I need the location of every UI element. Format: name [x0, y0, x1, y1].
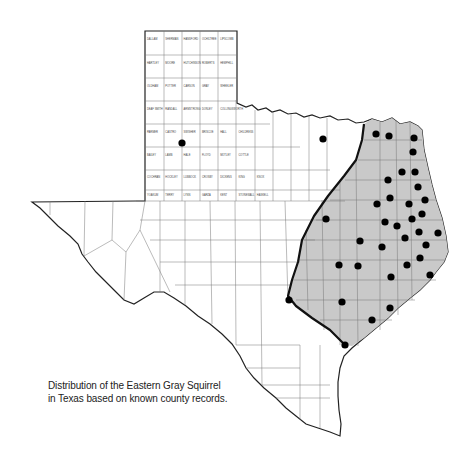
county-label: RANDALL [165, 107, 178, 111]
county-label: BAILEY [147, 153, 156, 157]
record-dot [414, 183, 421, 190]
record-dot [398, 168, 405, 175]
county-label: PARMER [147, 130, 158, 134]
county-label: HASKELL [257, 193, 269, 197]
county-label: OCHILTREE [202, 37, 217, 41]
record-dot [401, 234, 408, 241]
county-label: CROSBY [202, 175, 213, 179]
record-dot [386, 194, 393, 201]
county-label: DEAF SMITH [147, 107, 163, 111]
county-label: KNOX [257, 175, 265, 179]
county-label: YOAKUM [147, 193, 158, 197]
county-label: OLDHAM [147, 84, 158, 88]
county-label: LYNN [184, 193, 191, 197]
record-dot [421, 196, 428, 203]
county-label: KENT [220, 193, 227, 197]
county-label: HARTLEY [147, 61, 159, 65]
record-dot [434, 229, 441, 236]
record-dot [409, 148, 416, 155]
county-label: FLOYD [202, 153, 211, 157]
county-label: HALE [184, 153, 191, 157]
record-dot [422, 241, 429, 248]
record-dot [387, 273, 394, 280]
record-dot [384, 176, 391, 183]
county-label: HANSFORD [184, 37, 199, 41]
record-dot [335, 261, 342, 268]
county-label: TERRY [165, 193, 174, 197]
county-label: COLLINGSWORTH [220, 107, 243, 111]
record-dot [378, 243, 385, 250]
county-label: KING [239, 175, 245, 179]
record-dot [416, 254, 423, 261]
county-label: GRAY [202, 84, 209, 88]
county-label: LIPSCOMB [220, 37, 234, 41]
record-dot [368, 316, 375, 323]
county-label: LAMB [165, 153, 172, 157]
record-dot [338, 298, 345, 305]
texas-distribution-map: DALLAMSHERMANHANSFORDOCHILTREELIPSCOMBHA… [0, 0, 476, 462]
record-dot [411, 168, 418, 175]
county-label: SHERMAN [165, 37, 178, 41]
county-label: DICKENS [220, 175, 232, 179]
caption-line-2: in Texas based on known county records. [48, 392, 227, 405]
record-dot [403, 261, 410, 268]
record-dot [418, 210, 425, 217]
county-label: GARZA [202, 193, 211, 197]
record-dot [381, 218, 388, 225]
record-dot [356, 237, 363, 244]
record-dot [285, 296, 292, 303]
record-dot [354, 262, 361, 269]
record-dot [178, 139, 185, 146]
county-label: ARMSTRONG [184, 107, 201, 111]
record-dot [386, 304, 393, 311]
record-dot [393, 222, 400, 229]
county-label: COTTLE [239, 153, 250, 157]
record-dot [408, 215, 415, 222]
county-label: POTTER [165, 84, 176, 88]
record-dot [322, 215, 329, 222]
record-dot [319, 135, 326, 142]
county-label: DALLAM [147, 37, 157, 41]
county-label: STONEWALL [239, 193, 255, 197]
county-label: CASTRO [165, 130, 176, 134]
caption-line-1: Distribution of the Eastern Gray Squirre… [48, 379, 227, 392]
county-label: BRISCOE [202, 130, 214, 134]
record-dot [341, 341, 348, 348]
record-dot [410, 134, 417, 141]
county-label: DONLEY [202, 107, 213, 111]
county-label: MOORE [165, 61, 175, 65]
record-dot [385, 132, 392, 139]
record-dot [405, 200, 412, 207]
county-label: CARSON [184, 84, 195, 88]
county-label: HALL [220, 130, 227, 134]
county-label: HOCKLEY [165, 175, 178, 179]
county-label: LUBBOCK [184, 175, 197, 179]
county-label: HUTCHINSON [184, 61, 201, 65]
county-label: ROBERTS [202, 61, 215, 65]
county-label: WHEELER [220, 84, 233, 88]
record-dot [372, 130, 379, 137]
map-caption: Distribution of the Eastern Gray Squirre… [48, 379, 227, 405]
county-label: CHILDRESS [239, 130, 254, 134]
record-dot [415, 228, 422, 235]
county-label: COCHRAN [147, 175, 160, 179]
county-label: SWISHER [184, 130, 196, 134]
record-dot [373, 200, 380, 207]
county-label: MOTLEY [220, 153, 231, 157]
record-dot [426, 271, 433, 278]
county-label: HEMPHILL [220, 61, 234, 65]
